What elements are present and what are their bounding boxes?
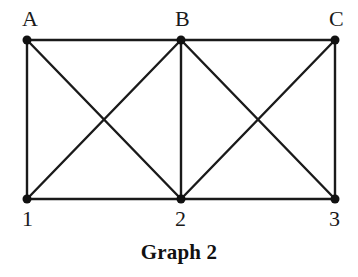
graph-drawing-canvas (0, 0, 358, 277)
node-label-A: A (22, 8, 38, 30)
node-label-C: C (329, 8, 344, 30)
graph-node-3 (331, 195, 340, 204)
node-label-1: 1 (22, 208, 33, 230)
node-label-3: 3 (329, 208, 340, 230)
graph-figure: ABC123 Graph 2 (0, 0, 358, 277)
figure-caption: Graph 2 (0, 240, 358, 265)
graph-node-1 (23, 195, 32, 204)
graph-node-C (331, 36, 340, 45)
graph-node-B (177, 36, 186, 45)
node-label-2: 2 (175, 208, 186, 230)
graph-node-A (23, 36, 32, 45)
graph-edges (27, 40, 335, 199)
graph-node-2 (177, 195, 186, 204)
node-label-B: B (175, 8, 190, 30)
